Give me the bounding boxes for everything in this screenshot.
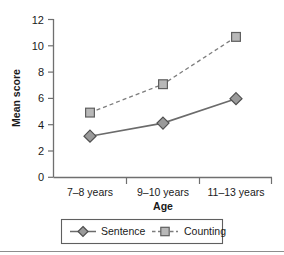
legend-label-counting: Counting [184,225,226,237]
y-tick-label-12: 12 [32,14,44,26]
data-point-counting-2 [232,33,241,42]
y-tick-label-8: 8 [38,66,44,78]
legend-label-sentence: Sentence [101,225,146,237]
x-tick-label-1: 9–10 years [137,186,189,198]
y-tick-label-10: 10 [32,40,44,52]
data-point-counting-0 [86,108,95,117]
data-point-counting-1 [159,80,168,89]
x-tick-label-0: 7–8 years [67,186,113,198]
legend-marker-square-icon [161,227,169,235]
y-tick-label-0: 0 [38,171,44,183]
bottom-divider [0,251,284,252]
y-tick-label-4: 4 [38,119,44,131]
chart-legend: Sentence Counting [62,220,227,244]
chart-figure: 12 10 8 6 4 2 0 7–8 years 9–10 years 11–… [0,0,284,255]
y-tick-label-2: 2 [38,145,44,157]
y-tick-label-6: 6 [38,92,44,104]
y-axis-title: Mean score [10,69,22,127]
x-tick-label-2: 11–13 years [207,186,264,198]
x-axis-title: Age [153,200,173,212]
line-chart: 12 10 8 6 4 2 0 7–8 years 9–10 years 11–… [0,0,284,255]
